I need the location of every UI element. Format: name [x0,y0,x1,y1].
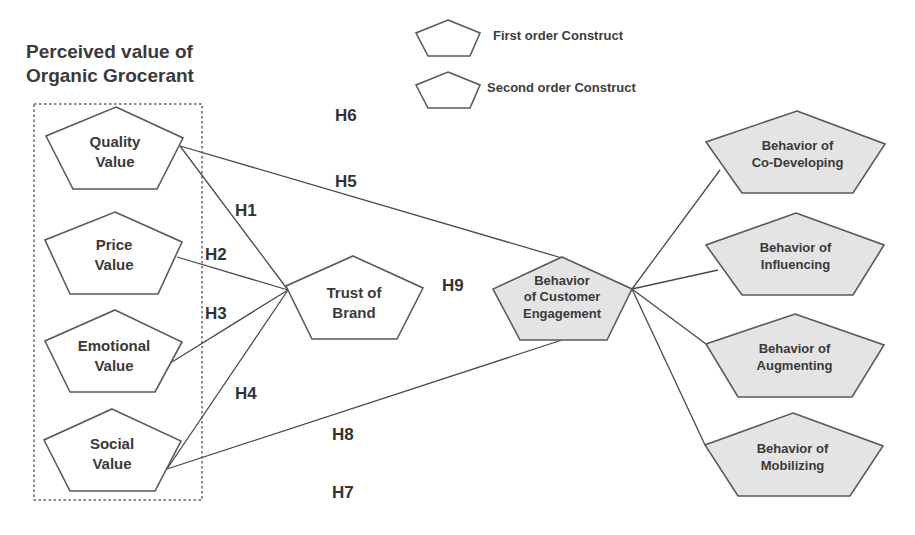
edge-engagement-mobilizing [632,289,705,445]
node-engagement-line2: of Customer [502,289,622,305]
node-emotional-line2: Value [55,356,173,376]
hypothesis-h5: H5 [335,172,357,192]
node-codeveloping-line1: Behavior of [735,138,860,155]
edge-price-trust [177,257,288,290]
node-price-line2: Value [55,255,173,275]
node-trust-line2: Brand [295,303,413,323]
node-quality-line2: Value [56,152,174,172]
node-price-value: Price Value [55,235,173,274]
node-influencing: Behavior of Influencing [733,240,858,274]
node-augmenting: Behavior of Augmenting [732,341,857,375]
title-line-2: Organic Grocerant [26,65,194,86]
legend-second-order-label: Second order Construct [487,80,636,95]
hypothesis-h7: H7 [332,483,354,503]
diagram-title: Perceived value of Organic Grocerant [26,40,194,88]
hypothesis-h9: H9 [442,276,464,296]
node-influencing-line2: Influencing [733,257,858,274]
node-trust-line1: Trust of [295,283,413,303]
node-mobilizing: Behavior of Mobilizing [730,441,855,475]
node-trust-of-brand: Trust of Brand [295,283,413,322]
node-emotional-value: Emotional Value [55,336,173,375]
edge-emotional-trust [172,290,288,362]
hypothesis-h2: H2 [205,245,227,265]
hypothesis-h1: H1 [235,201,257,221]
node-engagement-line1: Behavior [502,273,622,289]
node-engagement-line3: Engagement [502,306,622,322]
node-emotional-line1: Emotional [55,336,173,356]
node-augmenting-line1: Behavior of [732,341,857,358]
node-social-line1: Social [53,434,171,454]
legend-second-order-icon [416,72,480,108]
legend-first-order-icon [416,20,480,56]
node-quality-value: Quality Value [56,132,174,171]
edge-engagement-influencing [632,270,718,289]
edge-engagement-codeveloping [632,170,720,289]
title-line-1: Perceived value of [26,41,193,62]
edge-social-engagement [167,340,562,469]
hypothesis-h8: H8 [332,425,354,445]
node-quality-line1: Quality [56,132,174,152]
edge-quality-trust [180,146,288,290]
node-codeveloping-line2: Co-Developing [735,155,860,172]
edge-engagement-augmenting [632,289,706,344]
edge-social-trust [167,290,288,469]
node-augmenting-line2: Augmenting [732,358,857,375]
node-customer-engagement: Behavior of Customer Engagement [502,273,622,322]
legend-first-order-label: First order Construct [493,28,623,43]
node-social-value: Social Value [53,434,171,473]
node-price-line1: Price [55,235,173,255]
node-social-line2: Value [53,454,171,474]
node-co-developing: Behavior of Co-Developing [735,138,860,172]
node-influencing-line1: Behavior of [733,240,858,257]
node-mobilizing-line2: Mobilizing [730,458,855,475]
hypothesis-h3: H3 [205,304,227,324]
hypothesis-h4: H4 [235,384,257,404]
hypothesis-h6: H6 [335,106,357,126]
edges [167,146,720,469]
node-mobilizing-line1: Behavior of [730,441,855,458]
